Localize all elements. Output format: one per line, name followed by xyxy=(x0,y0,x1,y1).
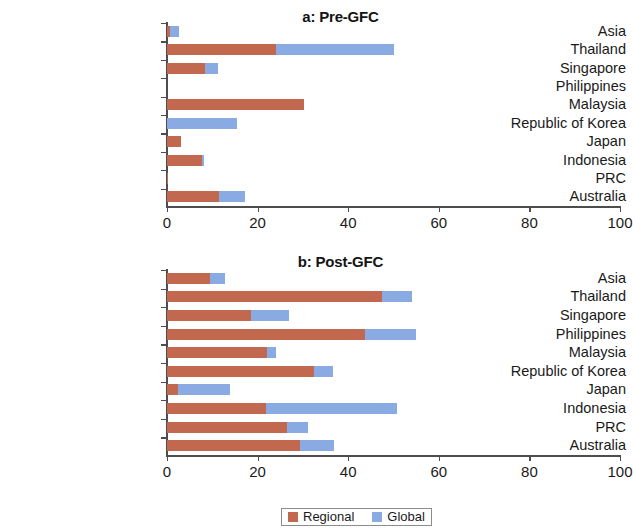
bar-segment-global xyxy=(205,63,218,74)
x-axis-tick xyxy=(439,207,440,212)
bar-segment-regional xyxy=(167,440,300,451)
x-axis-tick-label: 20 xyxy=(249,214,266,231)
bar-segment-regional xyxy=(167,403,266,414)
x-axis-line xyxy=(166,455,621,457)
category-label: Republic of Korea xyxy=(511,116,626,131)
x-axis-tick xyxy=(439,456,440,461)
y-axis-tick xyxy=(161,363,166,364)
y-axis-tick xyxy=(161,189,166,190)
category-label: Malaysia xyxy=(569,345,626,360)
y-axis-tick xyxy=(161,326,166,327)
y-axis-tick xyxy=(161,437,166,438)
bar-segment-regional xyxy=(167,155,202,166)
category-label: Asia xyxy=(598,271,626,286)
category-label: Indonesia xyxy=(563,401,626,416)
x-axis-tick-label: 100 xyxy=(607,463,632,480)
category-label: Thailand xyxy=(570,42,626,57)
y-axis-tick xyxy=(161,152,166,153)
bar-segment-global xyxy=(251,310,289,321)
chart-panel-pre-gfc: a: Pre-GFC 020406080100AsiaThailandSinga… xyxy=(0,0,631,245)
category-label: PRC xyxy=(595,420,626,435)
category-label: Indonesia xyxy=(563,153,626,168)
x-axis-tick-label: 0 xyxy=(163,463,171,480)
y-axis-tick xyxy=(161,133,166,134)
bar-segment-regional xyxy=(167,99,304,110)
y-axis-tick xyxy=(161,23,166,24)
x-axis-tick xyxy=(167,456,168,461)
panel-b-title: b: Post-GFC xyxy=(0,253,631,270)
legend-entry-regional: Regional xyxy=(288,510,354,523)
y-axis-tick xyxy=(161,344,166,345)
bar-segment-regional xyxy=(167,44,276,55)
bar-segment-regional xyxy=(167,291,382,302)
bar-segment-regional xyxy=(167,173,168,184)
x-axis-tick-label: 40 xyxy=(340,214,357,231)
category-label: Singapore xyxy=(560,308,626,323)
x-axis-tick xyxy=(529,207,530,212)
legend-entry-global: Global xyxy=(372,510,425,523)
category-label: Japan xyxy=(586,382,626,397)
x-axis-tick-label: 20 xyxy=(249,463,266,480)
x-axis-tick xyxy=(620,456,621,461)
legend-label-regional: Regional xyxy=(303,510,354,523)
bar-segment-global xyxy=(267,347,277,358)
bar-segment-global xyxy=(178,384,230,395)
bar-segment-global xyxy=(300,440,334,451)
y-axis-tick xyxy=(161,97,166,98)
x-axis-tick xyxy=(258,456,259,461)
bar-segment-regional xyxy=(167,329,365,340)
x-axis-tick xyxy=(348,207,349,212)
bar-segment-global xyxy=(266,403,397,414)
bar-segment-regional xyxy=(167,273,210,284)
x-axis-tick-label: 60 xyxy=(430,463,447,480)
category-label: Australia xyxy=(570,189,626,204)
chart-panel-post-gfc: b: Post-GFC 020406080100AsiaThailandSing… xyxy=(0,245,631,493)
category-label: Malaysia xyxy=(569,97,626,112)
legend-swatch-regional-icon xyxy=(288,512,298,522)
x-axis-line xyxy=(166,206,621,208)
y-axis-tick xyxy=(161,170,166,171)
x-axis-tick xyxy=(167,207,168,212)
bar-segment-global xyxy=(167,118,237,129)
panel-a-title: a: Pre-GFC xyxy=(0,8,631,25)
bar-segment-global xyxy=(276,44,394,55)
category-label: Japan xyxy=(586,134,626,149)
category-label: Singapore xyxy=(560,61,626,76)
bar-segment-global xyxy=(202,155,203,166)
x-axis-tick-label: 0 xyxy=(163,214,171,231)
bar-segment-global xyxy=(210,273,225,284)
bar-segment-regional xyxy=(167,347,267,358)
bar-segment-global xyxy=(219,191,246,202)
bar-segment-global xyxy=(365,329,416,340)
x-axis-tick xyxy=(620,207,621,212)
bar-segment-regional xyxy=(167,191,219,202)
bar-segment-regional xyxy=(167,422,287,433)
x-axis-tick-label: 80 xyxy=(521,214,538,231)
y-axis-tick xyxy=(161,60,166,61)
y-axis-tick xyxy=(161,41,166,42)
x-axis-tick-label: 80 xyxy=(521,463,538,480)
category-label: Thailand xyxy=(570,289,626,304)
bar-segment-regional xyxy=(167,384,178,395)
x-axis-tick-label: 60 xyxy=(430,214,447,231)
y-axis-tick xyxy=(161,289,166,290)
x-axis-tick-label: 40 xyxy=(340,463,357,480)
category-label: Asia xyxy=(598,24,626,39)
bar-segment-global xyxy=(314,366,333,377)
chart-legend: Regional Global xyxy=(281,508,432,526)
category-label: Australia xyxy=(570,438,626,453)
y-axis-tick xyxy=(161,115,166,116)
y-axis-tick xyxy=(161,270,166,271)
bar-segment-global xyxy=(382,291,411,302)
legend-label-global: Global xyxy=(387,510,425,523)
x-axis-tick-label: 100 xyxy=(607,214,632,231)
x-axis-tick xyxy=(258,207,259,212)
category-label: PRC xyxy=(595,171,626,186)
category-label: Republic of Korea xyxy=(511,364,626,379)
category-label: Philippines xyxy=(556,327,626,342)
bar-segment-regional xyxy=(167,310,251,321)
x-axis-tick xyxy=(529,456,530,461)
bar-segment-regional xyxy=(167,136,181,147)
bar-segment-regional xyxy=(167,366,314,377)
category-label: Philippines xyxy=(556,79,626,94)
